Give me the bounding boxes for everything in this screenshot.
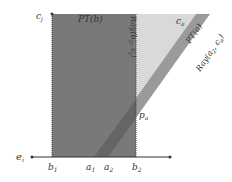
a1-label: a1 — [86, 162, 95, 173]
pt-b-label: PT(b) — [77, 14, 103, 24]
b2-label: b2 — [132, 162, 142, 173]
e-i-right-endpoint — [169, 156, 172, 159]
ray-a2-ca-label-group: Ray(a2, ca) — [194, 33, 227, 75]
c-j-point — [51, 13, 54, 16]
a2-label: a2 — [104, 162, 113, 173]
e-i-label: ei — [16, 151, 24, 163]
ray-a2-ca-label: Ray(a2, ca) — [194, 33, 227, 75]
b1-label: b1 — [48, 162, 58, 173]
diagram-canvas: cj PT(b) ca PT(a) Ray(a2, ca) Ray(b2, cj… — [0, 0, 232, 182]
p-a-label: pa — [139, 110, 149, 121]
e-i-left-endpoint — [31, 156, 34, 159]
c-j-label: cj — [36, 11, 43, 23]
pt-b-region — [52, 14, 136, 157]
